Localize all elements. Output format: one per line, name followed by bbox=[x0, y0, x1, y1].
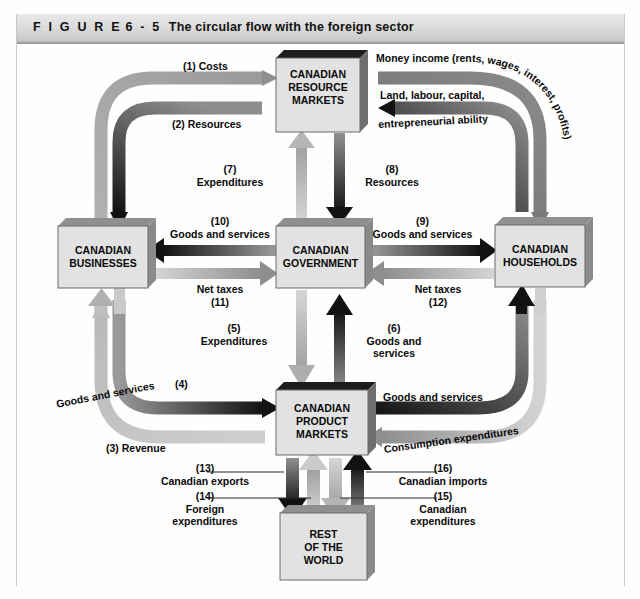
flow-businesses-column-down bbox=[115, 198, 126, 218]
label-flow-7: (7) Expenditures bbox=[190, 163, 270, 188]
label-flow-15: (15) Canadian expenditures bbox=[388, 490, 498, 528]
flow-businesses-down-right bbox=[114, 288, 125, 314]
label-canadian-households: CANADIAN HOUSEHOLDS bbox=[495, 243, 585, 269]
label-canadian-businesses: CANADIAN BUSINESSES bbox=[58, 244, 148, 270]
label-flow-13: (13) Canadian exports bbox=[155, 462, 255, 487]
label-flow-5: (5) Expenditures bbox=[192, 322, 276, 347]
figure-frame: F I G U R E 6 - 5 The circular flow with… bbox=[0, 0, 640, 599]
flow-households-down-right bbox=[535, 288, 546, 314]
label-factors-line1: Land, labour, capital, bbox=[380, 89, 484, 102]
flow-6-goods-and-services bbox=[326, 294, 353, 390]
label-canadian-product-markets: CANADIAN PRODUCT MARKETS bbox=[276, 402, 368, 441]
label-flow-9: (9) Goods and services bbox=[360, 215, 485, 240]
label-flow-10: (10) Goods and services bbox=[160, 215, 280, 240]
label-flow-6: (6) Goods and services bbox=[352, 322, 436, 360]
label-flow-3: (3) Revenue bbox=[106, 442, 166, 455]
label-canadian-government: CANADIAN GOVERNMENT bbox=[276, 244, 365, 270]
label-flow-8: (8) Resources bbox=[352, 163, 432, 188]
label-flow-16: (16) Canadian imports bbox=[388, 462, 498, 487]
label-flow-4-number: (4) bbox=[175, 378, 188, 391]
label-flow-14: (14) Foreign expenditures bbox=[155, 490, 255, 528]
flow-businesses-up-left bbox=[88, 288, 115, 314]
label-rest-of-the-world: REST OF THE WORLD bbox=[280, 528, 367, 567]
flow-4-goods-and-services bbox=[119, 300, 280, 418]
label-goods-services-right: Goods and services bbox=[383, 391, 483, 404]
label-flow-11: Net taxes (11) bbox=[160, 283, 280, 308]
label-flow-12: Net taxes (12) bbox=[378, 283, 498, 308]
flow-10-goods-and-services bbox=[146, 238, 276, 263]
flow-9-goods-and-services bbox=[370, 238, 497, 263]
flow-5-expenditures bbox=[288, 290, 315, 388]
